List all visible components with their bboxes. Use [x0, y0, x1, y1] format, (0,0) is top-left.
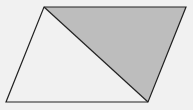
parallelogram-diagram — [0, 0, 193, 110]
